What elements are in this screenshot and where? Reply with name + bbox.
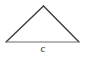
triangle-left-side <box>6 6 44 42</box>
triangle-right-side <box>44 6 80 42</box>
base-side-label: c <box>0 42 86 55</box>
triangle-figure: c <box>0 0 86 57</box>
